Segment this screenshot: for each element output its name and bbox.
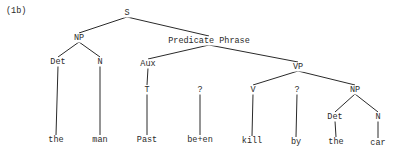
tree-edge <box>335 121 336 137</box>
tree-edge <box>209 45 298 62</box>
node-w-man: man <box>91 136 108 145</box>
node-det2: Det <box>326 113 343 122</box>
tree-edge <box>58 42 79 57</box>
node-n1: N <box>96 58 103 67</box>
tree-edge <box>252 94 253 136</box>
node-vp: VP <box>292 63 304 72</box>
node-np1: NP <box>73 34 85 43</box>
node-n2: N <box>374 113 381 122</box>
tree-edge <box>127 17 209 36</box>
tree-edge <box>298 71 355 85</box>
node-predp: Predicate Phrase <box>167 37 251 46</box>
node-v: V <box>249 86 256 95</box>
node-det1: Det <box>49 58 66 67</box>
node-w-past: Past <box>136 136 158 145</box>
node-s: S <box>123 9 130 18</box>
tree-edge <box>335 94 355 112</box>
tree-edge <box>79 17 127 33</box>
node-w-the2: the <box>327 138 344 147</box>
syntax-tree-edges <box>0 0 394 154</box>
tree-edge <box>147 68 148 85</box>
tree-edge <box>355 94 378 112</box>
node-np2: NP <box>349 86 361 95</box>
node-w-kill: kill <box>241 137 263 146</box>
node-q1: ? <box>196 86 203 95</box>
tree-edge <box>56 66 58 135</box>
node-aux: Aux <box>139 60 156 69</box>
node-w-been: be+en <box>186 136 214 145</box>
node-w-car: car <box>369 139 386 148</box>
node-q2: ? <box>293 86 300 95</box>
tree-edge <box>296 94 297 137</box>
node-w-by: by <box>290 138 302 147</box>
tree-edge <box>148 45 209 59</box>
node-w-the1: the <box>47 136 64 145</box>
tree-edge <box>253 71 298 85</box>
tree-edge <box>79 42 100 57</box>
node-t: T <box>143 86 150 95</box>
